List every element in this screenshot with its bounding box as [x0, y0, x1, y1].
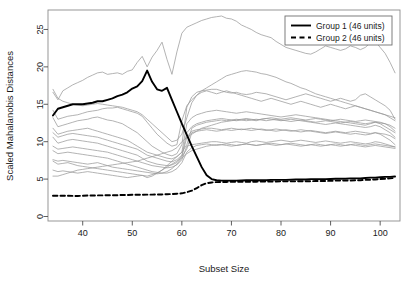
x-tick-label: 100	[373, 228, 388, 238]
x-tick-label: 50	[127, 228, 137, 238]
legend-label: Group 1 (46 units)	[316, 21, 385, 31]
y-tick-label: 20	[35, 62, 45, 72]
y-axis-title: Scaled Mahalanobis Distances	[4, 51, 15, 181]
y-tick-label: 25	[35, 24, 45, 34]
y-tick-label: 5	[35, 177, 45, 182]
x-tick-label: 70	[226, 228, 236, 238]
y-tick-label: 15	[35, 99, 45, 109]
x-tick-label: 40	[78, 228, 88, 238]
legend-label: Group 2 (46 units)	[316, 33, 385, 43]
chart-canvas: 405060708090100 0510152025 Subset Size S…	[0, 0, 412, 283]
forward-search-plot: 405060708090100 0510152025 Subset Size S…	[0, 0, 412, 283]
chart-legend: Group 1 (46 units)Group 2 (46 units)	[285, 16, 392, 45]
y-tick-label: 0	[35, 214, 45, 219]
x-axis-title: Subset Size	[199, 263, 250, 274]
x-tick-label: 80	[276, 228, 286, 238]
y-tick-label: 10	[35, 137, 45, 147]
x-tick-label: 60	[177, 228, 187, 238]
x-tick-label: 90	[326, 228, 336, 238]
